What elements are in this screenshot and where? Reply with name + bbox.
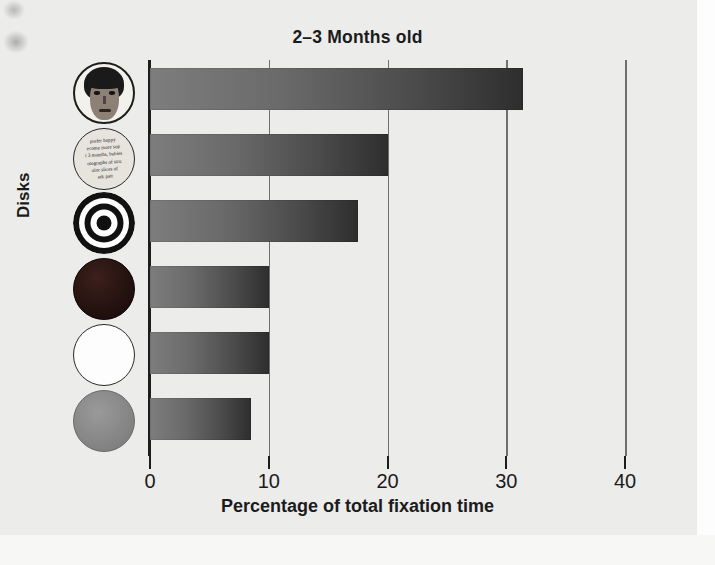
gridline-10	[269, 60, 271, 456]
x-tick-label: 30	[495, 470, 517, 493]
plot-area: 0 10 20 30 40	[150, 60, 625, 456]
disk-row-icon-bullseye	[73, 192, 135, 254]
bar-solid-red-disk	[150, 266, 269, 308]
face-eye-left	[94, 91, 100, 95]
gridline-20	[388, 60, 390, 456]
x-tick-30	[505, 456, 507, 469]
y-axis-label: Disks	[14, 173, 34, 218]
bar-solid-white-disk	[150, 332, 269, 374]
bar-printed-text-disk	[150, 134, 388, 176]
disk-row-icon-red	[73, 258, 135, 320]
figure-canvas: 2–3 Months old Disks prefer happy ecome …	[0, 0, 715, 565]
face-nose	[103, 96, 106, 104]
face-mouth	[99, 109, 111, 112]
y-axis-spine	[148, 60, 151, 456]
page-margin-right	[697, 0, 715, 565]
solid-red-disk-icon	[73, 258, 135, 320]
disk-row-icon-white	[73, 324, 135, 386]
bar-face-disk	[150, 68, 523, 110]
bar-solid-gray-disk	[150, 398, 251, 440]
x-tick-10	[268, 456, 270, 469]
bullseye-disk-icon	[73, 192, 135, 254]
face-disk-icon	[73, 62, 135, 124]
disk-row-icon-face	[73, 62, 135, 124]
gridline-30	[506, 60, 508, 456]
disk-row-icon-gray	[73, 390, 135, 452]
x-tick-label: 10	[258, 470, 280, 493]
x-tick-label: 20	[376, 470, 398, 493]
solid-gray-disk-icon	[73, 390, 135, 452]
bar-bullseye-disk	[150, 200, 358, 242]
bullseye-ring-5	[97, 216, 112, 231]
gridline-40	[625, 60, 627, 456]
x-tick-40	[624, 456, 626, 469]
x-axis-label: Percentage of total fixation time	[0, 496, 715, 517]
disk-row-icon-text: prefer happy ecome more sop t 3 months, …	[73, 128, 135, 190]
face-fringe-shape	[86, 72, 123, 89]
x-tick-20	[387, 456, 389, 469]
x-tick-0	[149, 456, 151, 469]
printed-text-disk-icon: prefer happy ecome more sop t 3 months, …	[73, 128, 135, 190]
x-tick-label: 0	[144, 470, 155, 493]
solid-white-disk-icon	[73, 324, 135, 386]
x-tick-label: 40	[614, 470, 636, 493]
chart-title: 2–3 Months old	[0, 27, 715, 48]
page-margin-bottom	[0, 535, 715, 565]
face-eye-right	[109, 91, 115, 95]
printed-text-lines: prefer happy ecome more sop t 3 months, …	[73, 131, 135, 186]
